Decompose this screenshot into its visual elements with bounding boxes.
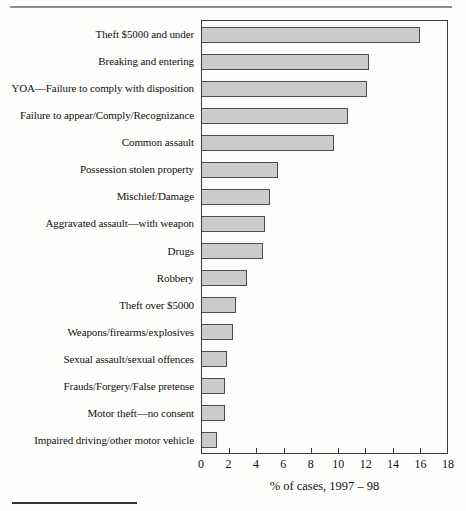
category-label: Theft over $5000: [0, 291, 201, 318]
category-label-text: Theft over $5000: [119, 299, 194, 311]
chart-figure: Theft $5000 and underBreaking and enteri…: [0, 0, 466, 511]
x-axis-tick-labels: 024681012141618: [201, 457, 448, 471]
category-label-text: Possession stolen property: [80, 163, 194, 175]
category-label-text: Weapons/firearms/explosives: [67, 326, 194, 338]
bar: [202, 108, 348, 124]
x-axis-tick-label: 4: [253, 457, 259, 472]
x-axis-tick-label: 0: [198, 457, 204, 472]
category-label: Impaired driving/other motor vehicle: [0, 427, 201, 454]
x-axis-tick: [365, 448, 366, 453]
bar: [202, 405, 225, 421]
category-label: Theft $5000 and under: [0, 20, 201, 47]
bar-row: [202, 210, 447, 237]
x-axis-tick: [311, 448, 312, 453]
bar-row: [202, 318, 447, 345]
bar: [202, 243, 263, 259]
bar-row: [202, 75, 447, 102]
x-axis-tick: [420, 448, 421, 453]
category-label: Motor theft—no consent: [0, 400, 201, 427]
x-axis-tick: [256, 448, 257, 453]
category-label-text: Frauds/Forgery/False pretense: [64, 380, 194, 392]
bar: [202, 270, 247, 286]
x-axis-title: % of cases, 1997 – 98: [201, 479, 448, 494]
bar: [202, 351, 227, 367]
bar-row: [202, 129, 447, 156]
category-label: Possession stolen property: [0, 156, 201, 183]
bar: [202, 216, 265, 232]
x-axis-tick-label: 16: [415, 457, 427, 472]
category-label-text: Common assault: [122, 136, 194, 148]
x-axis-tick: [229, 448, 230, 453]
bar: [202, 135, 334, 151]
x-axis-tick-label: 6: [280, 457, 286, 472]
bar: [202, 54, 369, 70]
x-axis-tick-label: 18: [442, 457, 454, 472]
x-axis-tick-label: 8: [308, 457, 314, 472]
bar-row: [202, 399, 447, 426]
category-label: YOA—Failure to comply with disposition: [0, 74, 201, 101]
x-axis-tick-label: 14: [387, 457, 399, 472]
category-label: Mischief/Damage: [0, 183, 201, 210]
category-label: Drugs: [0, 237, 201, 264]
category-label-text: Aggravated assault—with weapon: [45, 217, 194, 229]
category-label: Frauds/Forgery/False pretense: [0, 373, 201, 400]
bar-row: [202, 21, 447, 48]
x-axis-tick-label: 10: [332, 457, 344, 472]
x-axis-tick: [393, 448, 394, 453]
category-label-text: Failure to appear/Comply/Recognizance: [20, 109, 194, 121]
bar: [202, 189, 270, 205]
category-label-text: Drugs: [168, 245, 194, 257]
bar: [202, 432, 217, 448]
bar-row: [202, 264, 447, 291]
bar-row: [202, 345, 447, 372]
category-label: Failure to appear/Comply/Recognizance: [0, 101, 201, 128]
bar-row: [202, 156, 447, 183]
x-axis-tick: [338, 448, 339, 453]
bar-row: [202, 237, 447, 264]
category-label-text: Motor theft—no consent: [87, 407, 194, 419]
bar: [202, 81, 367, 97]
category-label: Robbery: [0, 264, 201, 291]
category-labels-column: Theft $5000 and underBreaking and enteri…: [0, 20, 201, 454]
category-label-text: Theft $5000 and under: [96, 28, 194, 40]
bar: [202, 324, 233, 340]
bar: [202, 162, 278, 178]
category-label: Common assault: [0, 129, 201, 156]
bar-row: [202, 102, 447, 129]
category-label-text: Impaired driving/other motor vehicle: [34, 434, 194, 446]
bar-row: [202, 183, 447, 210]
bar-row: [202, 48, 447, 75]
category-label-text: Robbery: [157, 272, 194, 284]
category-label: Weapons/firearms/explosives: [0, 318, 201, 345]
x-axis-tick-label: 12: [360, 457, 372, 472]
bar-row: [202, 372, 447, 399]
category-label: Aggravated assault—with weapon: [0, 210, 201, 237]
category-label-text: Mischief/Damage: [117, 190, 194, 202]
bar-chart: Theft $5000 and underBreaking and enteri…: [0, 20, 448, 454]
category-label: Sexual assault/sexual offences: [0, 346, 201, 373]
x-axis-tick-label: 2: [225, 457, 231, 472]
bar-row: [202, 426, 447, 453]
category-label-text: Sexual assault/sexual offences: [63, 353, 194, 365]
top-rule: [10, 6, 452, 8]
category-label-text: YOA—Failure to comply with disposition: [11, 82, 194, 94]
footnote-rule: [12, 502, 137, 504]
category-label-text: Breaking and entering: [98, 55, 194, 67]
bar-row: [202, 291, 447, 318]
bar: [202, 27, 420, 43]
bar: [202, 297, 236, 313]
x-axis-tick: [284, 448, 285, 453]
category-label: Breaking and entering: [0, 47, 201, 74]
bar: [202, 378, 225, 394]
plot-area: [201, 20, 448, 454]
